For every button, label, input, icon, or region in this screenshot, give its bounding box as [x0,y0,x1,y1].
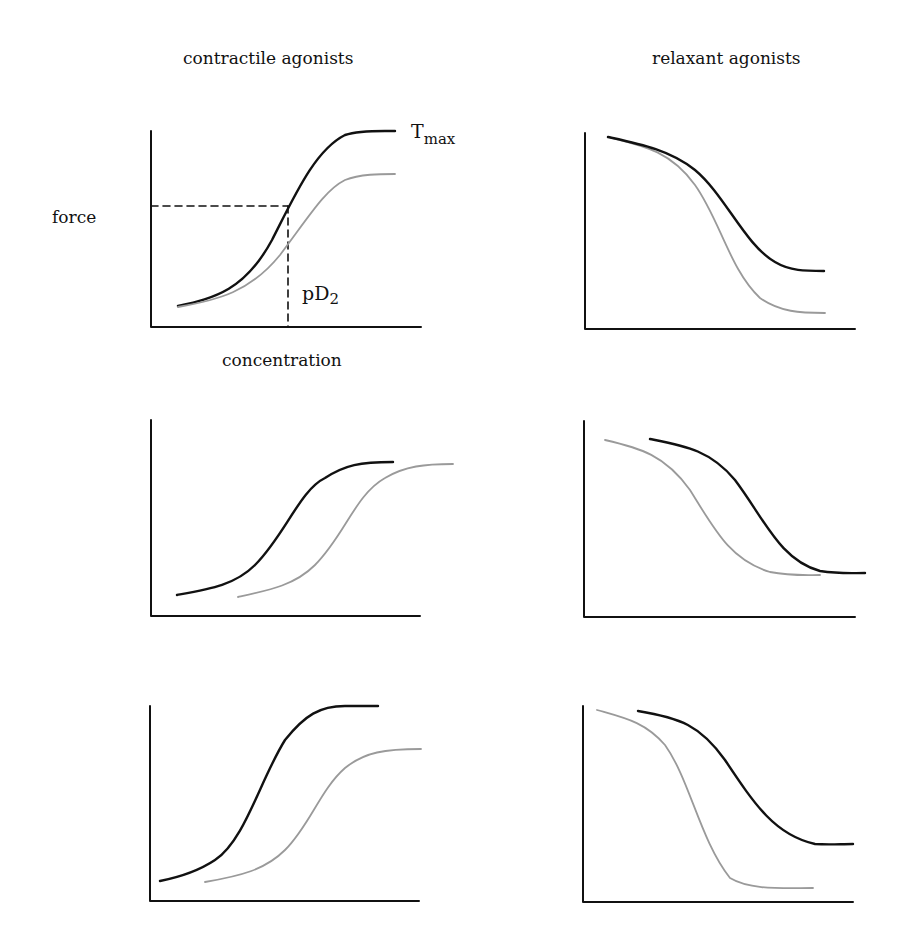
panel-relaxant-row1 [585,133,855,329]
treated-curve [608,137,825,313]
control-curve [177,462,393,595]
control-curve [160,706,378,881]
figure-canvas [0,0,898,944]
control-curve [650,439,865,573]
treated-curve [238,464,453,597]
control-curve [178,131,395,306]
axes [583,706,853,902]
treated-curve [178,174,395,307]
treated-curve [205,749,421,882]
control-curve [608,137,824,271]
axes [151,420,420,616]
panel-relaxant-row3 [583,706,853,902]
panel-contractile-row1 [151,131,421,327]
axes [584,421,855,617]
panel-contractile-row2 [151,420,453,616]
axes [151,131,421,327]
panel-relaxant-row2 [584,421,865,617]
control-curve [638,711,853,844]
panel-contractile-row3 [150,706,421,901]
